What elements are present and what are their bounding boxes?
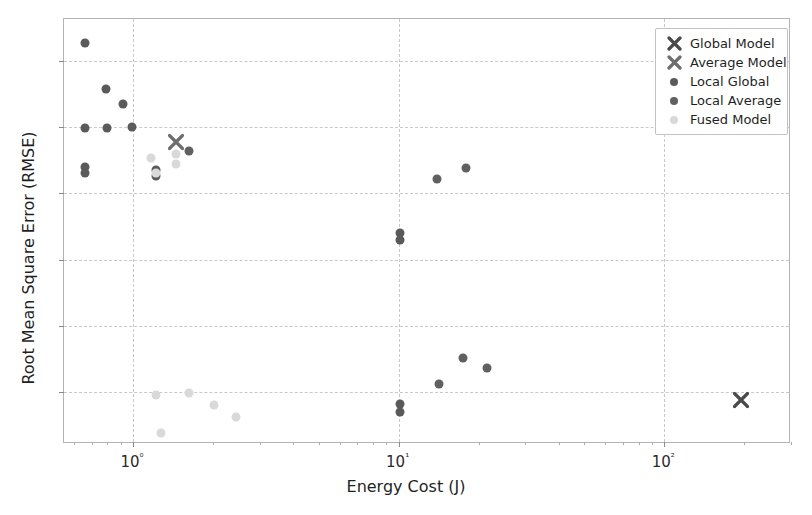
gridline-horizontal bbox=[64, 260, 789, 261]
data-point bbox=[81, 38, 90, 47]
data-point bbox=[210, 400, 219, 409]
scatter-plot-figure: 111213141516 10⁰10¹10² Energy Cost (J) R… bbox=[0, 0, 812, 515]
x-tick-minor bbox=[74, 442, 75, 445]
y-axis-label: Root Mean Square Error (RMSE) bbox=[19, 45, 38, 470]
legend-item[interactable]: Local Average bbox=[661, 91, 781, 110]
x-axis-label: Energy Cost (J) bbox=[0, 477, 812, 496]
x-tick-minor bbox=[584, 442, 585, 445]
x-tick-minor bbox=[373, 442, 374, 445]
legend-item[interactable]: Local Global bbox=[661, 72, 781, 91]
x-tick-minor bbox=[121, 442, 122, 445]
legend-label: Local Global bbox=[687, 74, 769, 89]
x-tick-minor bbox=[386, 442, 387, 445]
legend-x-icon bbox=[661, 36, 687, 51]
data-point bbox=[184, 388, 193, 397]
data-point bbox=[101, 84, 110, 93]
x-tick-label: 10¹ bbox=[386, 452, 409, 471]
data-point bbox=[119, 99, 128, 108]
x-tick-minor bbox=[107, 442, 108, 445]
legend-x-icon bbox=[661, 55, 687, 70]
x-tick-mark bbox=[664, 442, 665, 447]
data-point bbox=[147, 153, 156, 162]
legend-marker bbox=[661, 97, 687, 105]
x-tick-minor bbox=[525, 442, 526, 445]
y-tick-mark bbox=[59, 61, 64, 62]
legend: Global ModelAverage ModelLocal GlobalLoc… bbox=[655, 28, 788, 135]
x-tick-minor bbox=[260, 442, 261, 445]
x-tick-minor bbox=[357, 442, 358, 445]
data-point bbox=[433, 174, 442, 183]
x-tick-mark bbox=[399, 442, 400, 447]
legend-dot-icon bbox=[670, 97, 678, 105]
x-tick-minor bbox=[213, 442, 214, 445]
x-tick-mark bbox=[133, 442, 134, 447]
legend-marker bbox=[661, 116, 687, 124]
data-marker-x bbox=[733, 392, 750, 409]
data-point bbox=[103, 124, 112, 133]
legend-label: Fused Model bbox=[687, 112, 771, 127]
y-tick-mark bbox=[59, 326, 64, 327]
y-tick-mark bbox=[59, 260, 64, 261]
data-point bbox=[395, 408, 404, 417]
gridline-vertical bbox=[133, 19, 134, 442]
x-tick-label: 10² bbox=[652, 452, 675, 471]
legend-label: Average Model bbox=[687, 55, 787, 70]
data-point bbox=[184, 146, 193, 155]
x-tick-minor bbox=[744, 442, 745, 445]
y-tick-mark bbox=[59, 193, 64, 194]
legend-marker bbox=[661, 78, 687, 86]
x-tick-minor bbox=[791, 442, 792, 445]
x-tick-minor bbox=[639, 442, 640, 445]
gridline-horizontal bbox=[64, 193, 789, 194]
x-tick-minor bbox=[605, 442, 606, 445]
data-point bbox=[482, 364, 491, 373]
x-tick-minor bbox=[559, 442, 560, 445]
gridline-horizontal bbox=[64, 392, 789, 393]
legend-label: Local Average bbox=[687, 93, 781, 108]
data-point bbox=[232, 413, 241, 422]
x-tick-minor bbox=[293, 442, 294, 445]
x-tick-minor bbox=[652, 442, 653, 445]
data-point bbox=[151, 169, 160, 178]
legend-item[interactable]: Average Model bbox=[661, 53, 781, 72]
x-tick-minor bbox=[92, 442, 93, 445]
data-point bbox=[171, 149, 180, 158]
x-tick-label: 10⁰ bbox=[120, 452, 143, 471]
legend-dot-icon bbox=[670, 116, 678, 124]
legend-label: Global Model bbox=[687, 36, 775, 51]
x-tick-minor bbox=[340, 442, 341, 445]
legend-item[interactable]: Global Model bbox=[661, 34, 781, 53]
data-point bbox=[435, 380, 444, 389]
y-tick-mark bbox=[59, 127, 64, 128]
y-tick-mark bbox=[59, 392, 64, 393]
data-point bbox=[127, 123, 136, 132]
legend-item[interactable]: Fused Model bbox=[661, 110, 781, 129]
data-point bbox=[81, 123, 90, 132]
data-point bbox=[151, 390, 160, 399]
x-tick-minor bbox=[319, 442, 320, 445]
data-point bbox=[459, 353, 468, 362]
data-point bbox=[395, 235, 404, 244]
legend-dot-icon bbox=[670, 78, 678, 86]
x-tick-minor bbox=[479, 442, 480, 445]
x-tick-minor bbox=[623, 442, 624, 445]
data-point bbox=[157, 429, 166, 438]
gridline-horizontal bbox=[64, 326, 789, 327]
data-point bbox=[462, 164, 471, 173]
data-point bbox=[81, 169, 90, 178]
data-point bbox=[171, 160, 180, 169]
